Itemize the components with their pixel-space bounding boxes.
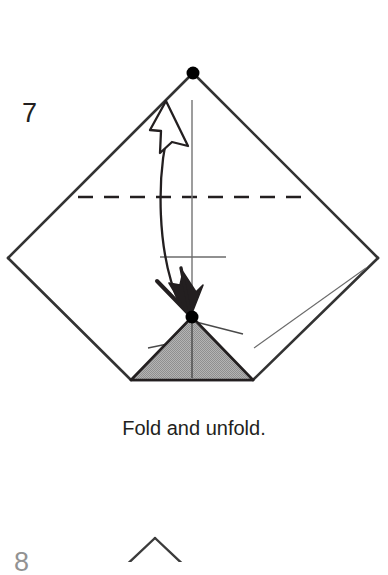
step-caption: Fold and unfold. (0, 416, 388, 440)
triangle-apex-dot-icon (186, 311, 199, 324)
next-figure-edge-left (120, 538, 155, 562)
step-number: 7 (22, 100, 37, 127)
next-step-number: 8 (14, 549, 29, 575)
crease-lower-right-parallel (254, 268, 366, 348)
next-step-partial-figure (120, 538, 190, 562)
edge-bottom-left (8, 258, 131, 380)
edge-bottom-right (253, 258, 378, 380)
edge-top-right (193, 73, 378, 258)
shaded-triangle (131, 317, 253, 380)
top-vertex-dot-icon (187, 67, 200, 80)
next-figure-edge-right (155, 538, 190, 562)
